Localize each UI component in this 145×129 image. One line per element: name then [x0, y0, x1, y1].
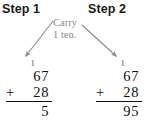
- carry-digit-step-2: 1: [96, 58, 142, 68]
- addition-column-step-2: 1 67 + 28 95: [96, 58, 142, 119]
- plus-operator-step-2: +: [96, 84, 105, 100]
- sum-step-2: 95: [96, 103, 142, 119]
- sum-rule-step-1: [6, 101, 52, 102]
- sum-rule-step-2: [96, 101, 142, 102]
- arrow-to-step-2-carry: [82, 25, 117, 57]
- carry-digit-step-1: 1: [6, 58, 52, 68]
- bottom-addend-row-step-1: + 28: [6, 84, 52, 100]
- addition-with-carrying-figure: Step 1 Step 2 Carry 1 ten. 1 67 + 28 5 1…: [0, 0, 145, 129]
- bottom-addend-step-1: 28: [33, 84, 49, 100]
- sum-step-1: 5: [6, 103, 52, 119]
- addition-column-step-1: 1 67 + 28 5: [6, 58, 52, 119]
- top-addend-step-2: 67: [96, 68, 142, 84]
- plus-operator-step-1: +: [6, 84, 15, 100]
- top-addend-step-1: 67: [6, 68, 52, 84]
- bottom-addend-step-2: 28: [123, 84, 139, 100]
- arrow-to-step-1-carry: [26, 21, 54, 57]
- bottom-addend-row-step-2: + 28: [96, 84, 142, 100]
